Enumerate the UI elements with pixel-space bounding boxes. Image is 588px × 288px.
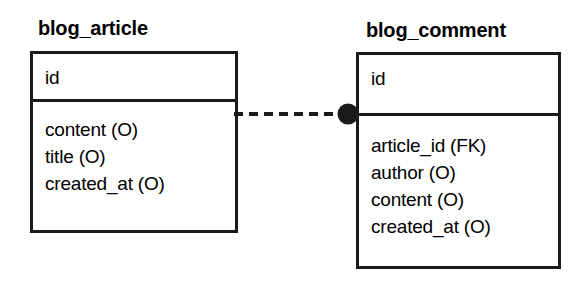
- entity-attribute-section-blog-comment: article_id (FK) author (O) content (O) c…: [359, 116, 558, 266]
- entity-attribute-blog-comment-author: author (O): [371, 163, 456, 182]
- entity-attribute-blog-comment-content: content (O): [371, 190, 464, 209]
- entity-key-field-blog-comment-id: id: [371, 69, 385, 88]
- entity-attribute-blog-comment-created-at: created_at (O): [371, 217, 491, 236]
- entity-attribute-blog-comment-article-id: article_id (FK): [371, 136, 486, 155]
- entity-key-field-blog-article-id: id: [45, 68, 59, 87]
- entity-attribute-blog-article-created-at: created_at (O): [45, 174, 165, 193]
- entity-box-blog-comment[interactable]: id article_id (FK) author (O) content (O…: [356, 52, 561, 269]
- er-diagram-canvas: blog_article id content (O) title (O) cr…: [0, 0, 588, 288]
- entity-box-blog-article[interactable]: id content (O) title (O) created_at (O): [30, 51, 238, 233]
- entity-title-blog-article: blog_article: [38, 18, 148, 38]
- relationship-connector-blog-article-blog-comment[interactable]: [234, 103, 364, 125]
- entity-title-blog-comment: blog_comment: [366, 20, 506, 40]
- entity-attribute-blog-article-content: content (O): [45, 120, 138, 139]
- entity-key-section-blog-article: id: [33, 54, 235, 102]
- entity-attribute-section-blog-article: content (O) title (O) created_at (O): [33, 102, 235, 230]
- entity-key-section-blog-comment: id: [359, 55, 558, 116]
- entity-attribute-blog-article-title: title (O): [45, 147, 105, 166]
